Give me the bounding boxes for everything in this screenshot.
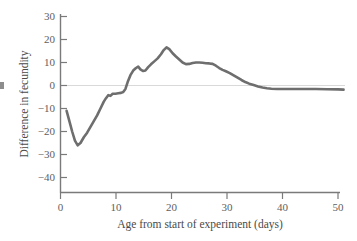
x-axis-ticks — [61, 193, 339, 199]
y-tick-label-neg40: −40 — [38, 171, 56, 183]
y-axis-title: Difference in fecundity — [18, 50, 31, 157]
y-tick-label-neg10: −10 — [38, 102, 56, 114]
y-axis-ticks — [61, 17, 67, 178]
y-tick-label-10: 10 — [44, 56, 56, 68]
x-axis-title: Age from start of experiment (days) — [117, 218, 283, 231]
x-tick-label-40: 40 — [277, 201, 289, 213]
x-tick-label-30: 30 — [222, 201, 234, 213]
fecundity-difference-curve — [67, 47, 344, 145]
y-tick-label-neg30: −30 — [38, 148, 56, 160]
fecundity-line-chart: 30 20 10 0 −10 −20 −30 −40 0 10 20 30 40… — [0, 0, 357, 241]
y-tick-label-20: 20 — [44, 33, 56, 45]
x-tick-label-50: 50 — [333, 201, 345, 213]
y-tick-label-0: 0 — [50, 79, 56, 91]
x-tick-label-0: 0 — [58, 201, 64, 213]
x-tick-label-20: 20 — [166, 201, 178, 213]
y-tick-label-neg20: −20 — [38, 125, 56, 137]
figure-container: 30 20 10 0 −10 −20 −30 −40 0 10 20 30 40… — [0, 0, 357, 241]
y-tick-label-30: 30 — [44, 10, 56, 22]
x-tick-label-10: 10 — [111, 201, 123, 213]
cropped-label-mark — [0, 82, 4, 89]
